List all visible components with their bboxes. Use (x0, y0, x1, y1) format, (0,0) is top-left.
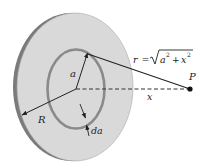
label-a: a (70, 68, 76, 79)
label-x: x (147, 91, 153, 102)
disk-face (17, 13, 133, 161)
formula-prefix: r = (133, 54, 150, 65)
r-formula: r = a 2 + x 2 (133, 50, 193, 65)
formula-plus: + (172, 55, 180, 65)
charged-disk-diagram: P x a R da r = a 2 + x 2 (0, 0, 206, 168)
point-p (187, 86, 192, 91)
formula-exp1: 2 (166, 51, 170, 58)
label-R: R (37, 114, 46, 125)
label-da: da (91, 125, 103, 136)
label-p: P (188, 71, 196, 82)
formula-exp2: 2 (187, 51, 191, 58)
